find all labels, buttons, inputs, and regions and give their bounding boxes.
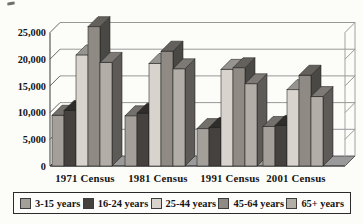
bar-front-face	[100, 62, 112, 166]
bar-front-face	[263, 126, 275, 166]
gridline-side	[345, 49, 355, 59]
y-tick	[50, 23, 60, 33]
y-tick	[50, 76, 60, 86]
legend-item-3-15-years: 3-15 years	[20, 198, 80, 209]
y-axis-tick-label: 10,000	[18, 107, 46, 118]
y-axis-tick-label: 20,000	[18, 54, 46, 65]
bar-front-face	[76, 55, 88, 166]
bar-front-face	[197, 129, 209, 166]
bar-front-face	[64, 110, 76, 166]
y-axis-tick-label: 5,000	[23, 134, 46, 145]
bar-front-face	[52, 115, 64, 166]
gridline-side	[345, 23, 355, 33]
bar-side-face	[185, 59, 195, 166]
legend-item-45-64-years: 45-64 years	[218, 198, 284, 209]
legend-label: 65+ years	[301, 198, 344, 209]
chart-svg: 05,00010,00015,00020,00025,0001971 Censu…	[0, 0, 363, 190]
bar-65-years-1971-census	[100, 52, 122, 166]
bar-front-face	[149, 63, 161, 166]
gridline-side	[345, 129, 355, 139]
legend-swatch-icon	[83, 198, 94, 209]
legend-swatch-icon	[151, 198, 162, 209]
legend-item-65-years: 65+ years	[286, 198, 344, 209]
bar-front-face	[88, 27, 100, 166]
legend-label: 16-24 years	[98, 198, 149, 209]
bar-front-face	[311, 97, 323, 166]
bar-side-face	[112, 52, 122, 166]
legend-label: 25-44 years	[166, 198, 217, 209]
y-axis-tick-label: 25,000	[18, 27, 46, 38]
y-axis-tick-label: 15,000	[18, 81, 46, 92]
bar-front-face	[209, 128, 221, 166]
x-category-label-1981-census: 1981 Census	[128, 172, 188, 184]
bar-front-face	[275, 125, 287, 166]
bar-front-face	[161, 51, 173, 166]
legend: 3-15 years16-24 years25-44 years45-64 ye…	[13, 192, 351, 214]
legend-swatch-icon	[286, 198, 297, 209]
bar-65-years-2001-census	[311, 87, 333, 166]
y-tick	[50, 49, 60, 59]
bar-side-face	[323, 87, 333, 166]
legend-item-25-44-years: 25-44 years	[151, 198, 217, 209]
bar-front-face	[173, 69, 185, 166]
x-category-label-2001-census: 2001 Census	[266, 172, 326, 184]
gridline-side	[345, 103, 355, 113]
bar-front-face	[299, 75, 311, 166]
bar-front-face	[137, 113, 149, 166]
legend-swatch-icon	[20, 198, 31, 209]
legend-label: 45-64 years	[233, 198, 284, 209]
bar-front-face	[221, 69, 233, 166]
bar-front-face	[233, 68, 245, 166]
bar-front-face	[245, 84, 257, 166]
bar-65-years-1981-census	[173, 59, 195, 166]
bar-front-face	[125, 116, 137, 166]
legend-item-16-24-years: 16-24 years	[83, 198, 149, 209]
y-axis-tick-label: 0	[41, 161, 46, 172]
scanned-chart-page: 05,00010,00015,00020,00025,0001971 Censu…	[0, 0, 363, 224]
legend-label: 3-15 years	[35, 198, 80, 209]
x-category-label-1971-census: 1971 Census	[55, 172, 115, 184]
x-category-label-1991-census: 1991 Census	[200, 172, 260, 184]
legend-swatch-icon	[218, 198, 229, 209]
gridline-side	[345, 76, 355, 86]
bar-front-face	[287, 90, 299, 166]
